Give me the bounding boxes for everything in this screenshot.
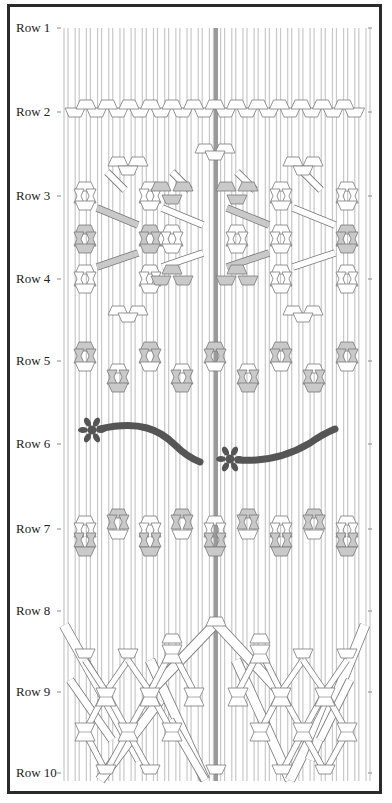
- macrame-pattern-diagram: [0, 0, 392, 803]
- cord-strands: [64, 28, 370, 781]
- flower-vine-motif: [78, 416, 335, 472]
